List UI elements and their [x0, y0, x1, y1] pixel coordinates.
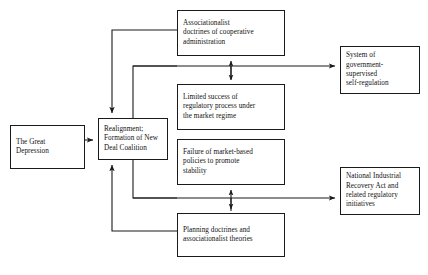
node-associationalist-doctrines[interactable]: Associationalist doctrines of cooperativ… — [177, 10, 285, 56]
node-realignment-label: Realignment; Formation of New Deal Coali… — [99, 125, 163, 153]
node-limited-success-label: Limited success of regulatory process un… — [178, 93, 260, 121]
node-national-industrial-recovery-act-label: National Industrial Recovery Act and rel… — [341, 172, 406, 209]
node-planning-doctrines[interactable]: Planning doctrines and associationalist … — [177, 213, 285, 257]
flow-diagram: The Great Depression Realignment; Format… — [0, 0, 428, 275]
node-failure-market-based-policies-label: Failure of market-based policies to prom… — [178, 148, 258, 176]
node-self-regulation-system-label: System of government- supervised self-re… — [341, 51, 394, 88]
node-national-industrial-recovery-act[interactable]: National Industrial Recovery Act and rel… — [340, 167, 420, 215]
node-great-depression-label: The Great Depression — [11, 138, 54, 157]
node-associationalist-doctrines-label: Associationalist doctrines of cooperativ… — [178, 19, 259, 47]
node-limited-success[interactable]: Limited success of regulatory process un… — [177, 84, 285, 130]
node-self-regulation-system[interactable]: System of government- supervised self-re… — [340, 46, 420, 94]
edge-associationalist-to-realignment — [112, 30, 177, 113]
node-failure-market-based-policies[interactable]: Failure of market-based policies to prom… — [177, 139, 285, 185]
edge-planning-to-realignment — [112, 165, 177, 231]
node-great-depression[interactable]: The Great Depression — [10, 125, 85, 169]
node-realignment[interactable]: Realignment; Formation of New Deal Coali… — [98, 118, 168, 160]
node-planning-doctrines-label: Planning doctrines and associationalist … — [178, 226, 258, 245]
